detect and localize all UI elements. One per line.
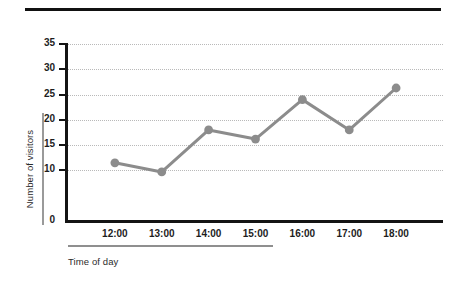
y-tick-mark-15 <box>59 144 65 146</box>
y-tick-label-10: 10 <box>25 163 55 174</box>
data-point-17-00 <box>345 126 354 135</box>
data-point-12-00 <box>110 158 119 167</box>
data-point-16-00 <box>298 95 307 104</box>
y-tick-mark-10 <box>59 169 65 171</box>
series-layer <box>0 0 465 303</box>
x-tick-label-18-00: 18:00 <box>369 228 423 239</box>
data-point-18-00 <box>392 84 401 93</box>
data-point-13-00 <box>157 168 166 177</box>
y-tick-mark-35 <box>59 43 65 45</box>
y-tick-label-0: 0 <box>25 214 55 225</box>
y-tick-mark-25 <box>59 94 65 96</box>
chart-figure: Number of visitors Time of day 353025201… <box>0 0 465 303</box>
y-tick-label-30: 30 <box>25 62 55 73</box>
data-point-15-00 <box>251 135 260 144</box>
y-tick-label-25: 25 <box>25 88 55 99</box>
y-tick-label-35: 35 <box>25 37 55 48</box>
y-tick-label-15: 15 <box>25 138 55 149</box>
data-point-14-00 <box>204 126 213 135</box>
y-tick-mark-30 <box>59 68 65 70</box>
series-line-number-of-visitors <box>115 88 396 172</box>
y-tick-mark-20 <box>59 119 65 121</box>
y-tick-label-20: 20 <box>25 113 55 124</box>
